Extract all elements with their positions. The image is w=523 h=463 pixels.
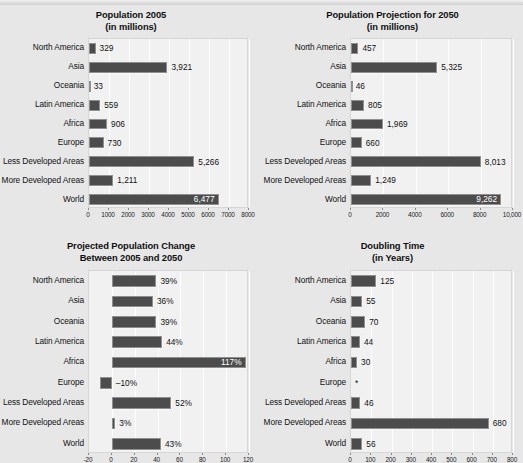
axis-tick-label: 0	[348, 211, 351, 218]
bar-value-label: 39%	[160, 318, 177, 326]
bar-value-label: 730	[108, 139, 122, 147]
axis-tick-mark	[447, 208, 448, 210]
bar-value-label: 8,013	[485, 158, 506, 166]
axis-tick-mark	[148, 208, 149, 210]
chart-title-population-2005: Population 2005(in millions)	[0, 5, 262, 32]
chart-subtitle: (in Years)	[262, 252, 523, 264]
axis-tick-label: 40	[153, 456, 160, 463]
bar	[351, 316, 365, 328]
axis-tick-label: 100	[365, 456, 375, 463]
axis-tick-mark	[168, 208, 169, 210]
bar	[351, 43, 358, 54]
bar-value-label: 46	[356, 82, 365, 90]
bar	[112, 397, 171, 409]
bar	[112, 275, 157, 287]
bar-value-label: 660	[366, 139, 380, 147]
category-label: Asia	[0, 290, 88, 310]
axis-tick-mark	[134, 453, 135, 455]
bar-value-label: 117%	[221, 358, 242, 366]
axis-tick-mark	[451, 453, 452, 455]
bar	[112, 316, 157, 328]
axis-tick-mark	[225, 453, 226, 455]
axis-tick-mark	[188, 208, 189, 210]
axis-tick-label: 6000	[201, 211, 214, 218]
charts-grid: Population 2005(in millions)North Americ…	[0, 5, 523, 463]
chart-title-line1: Population 2005	[0, 9, 262, 21]
gridline	[209, 39, 210, 207]
axis-tick-label: 10,000	[503, 211, 521, 218]
axis-tick-label: 2000	[376, 211, 389, 218]
bar	[351, 62, 437, 73]
bar-value-label: 9,262	[476, 195, 497, 203]
axis-tick-label: 20	[130, 456, 137, 463]
axis-tick-mark	[350, 453, 351, 455]
x-axis-population-2005: 010002000300040005000600070008000	[88, 208, 248, 220]
axis-tick-label: 120	[243, 456, 253, 463]
bar-value-label: –10%	[116, 379, 137, 387]
category-label: World	[0, 189, 88, 208]
axis-tick-mark	[492, 453, 493, 455]
axis-tick-label: 4000	[408, 211, 421, 218]
category-label: Latin America	[0, 331, 88, 351]
axis-tick-label: 0	[348, 456, 351, 463]
axis-tick-label: 60	[176, 456, 183, 463]
bar	[89, 62, 167, 73]
axis-tick-mark	[248, 453, 249, 455]
axis-tick-mark	[431, 453, 432, 455]
axis-tick-mark	[512, 208, 513, 210]
bar-value-label: 52%	[175, 399, 192, 407]
bar	[89, 100, 100, 111]
bar	[351, 137, 362, 148]
axis-tick-mark	[370, 453, 371, 455]
axis-tick-mark	[157, 453, 158, 455]
axis-tick-label: 800	[507, 456, 517, 463]
axis-tick-label: 3000	[141, 211, 154, 218]
category-label: Europe	[262, 132, 350, 151]
bar-value-label: *	[355, 379, 358, 387]
axis-tick-mark	[111, 453, 112, 455]
axis-tick-label: 500	[446, 456, 456, 463]
bar	[89, 156, 194, 167]
bar	[351, 438, 362, 450]
bar-value-label: 55	[366, 297, 375, 305]
category-labels-population-2005: North AmericaAsiaOceaniaLatin AmericaAfr…	[0, 38, 88, 208]
axis-tick-label: 0	[86, 211, 89, 218]
category-label: World	[262, 189, 350, 208]
chart-subtitle: (in millions)	[262, 21, 523, 33]
category-label: North America	[0, 38, 88, 57]
bar-value-label: 36%	[157, 297, 174, 305]
category-label: Latin America	[262, 95, 350, 114]
category-label: Oceania	[262, 76, 350, 95]
axis-tick-mark	[228, 208, 229, 210]
bar	[100, 377, 111, 389]
axis-tick-label: 200	[385, 456, 395, 463]
bar	[351, 418, 489, 430]
chart-subtitle: (in millions)	[0, 21, 262, 33]
plot-area-projected-population-change: 39%36%39%44%117%–10%52%3%43%	[88, 270, 248, 453]
category-label: Africa	[262, 114, 350, 133]
axis-tick-label: 400	[426, 456, 436, 463]
axis-tick-label: 2000	[121, 211, 134, 218]
bar	[112, 296, 153, 308]
category-label: Latin America	[262, 331, 350, 351]
axis-tick-mark	[411, 453, 412, 455]
axis-tick-label: 700	[487, 456, 497, 463]
bar-value-label: 559	[104, 101, 118, 109]
axis-tick-label: 300	[406, 456, 416, 463]
gridline	[249, 271, 250, 452]
bar-value-label: 39%	[160, 277, 177, 285]
category-label: Oceania	[262, 311, 350, 331]
axis-tick-label: 600	[466, 456, 476, 463]
axis-tick-mark	[382, 208, 383, 210]
axis-tick-label: 6000	[440, 211, 453, 218]
chart-panel-projected-population-change: Projected Population ChangeBetween 2005 …	[0, 226, 262, 463]
chart-title-line1: Doubling Time	[262, 240, 523, 252]
bar-value-label: 457	[362, 44, 376, 52]
gridline	[513, 39, 514, 207]
bar	[351, 100, 364, 111]
bar-value-label: 43%	[165, 440, 182, 448]
bar	[112, 336, 162, 348]
axis-tick-label: 7000	[221, 211, 234, 218]
bar	[351, 357, 357, 369]
axis-tick-label: 0	[109, 456, 112, 463]
